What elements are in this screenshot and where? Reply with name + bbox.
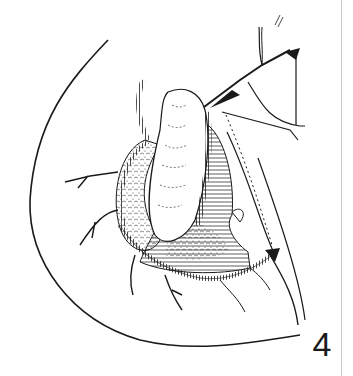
branch-main [200, 50, 290, 110]
upper-vessel [138, 80, 148, 140]
right-contour-inner [227, 132, 275, 255]
branch-down-1 [131, 255, 135, 295]
page-edge-line [341, 0, 342, 376]
branch-up2 [262, 27, 263, 65]
branch-dark-tip [285, 48, 300, 60]
lower-contour [270, 255, 298, 325]
anatomical-illustration [0, 0, 353, 376]
right-knob [232, 209, 243, 222]
branch-left-1 [65, 172, 118, 188]
right-contour-outer [258, 158, 305, 320]
tick-marks [275, 15, 283, 27]
branch-down-4 [250, 268, 270, 290]
figure-number-label: 4 [309, 326, 335, 362]
branch-down-3 [220, 280, 245, 312]
shelf-outline [222, 112, 298, 140]
branch-down-2 [165, 275, 182, 310]
branch-left-2 [80, 210, 118, 245]
figure-canvas: 4 [0, 0, 353, 376]
